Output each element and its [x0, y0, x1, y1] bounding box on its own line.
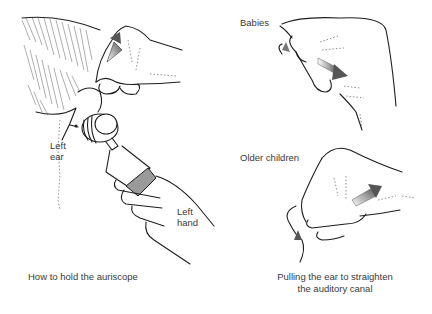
- left-caption: How to hold the auriscope: [28, 271, 168, 283]
- auriscope-drawing: [70, 88, 156, 196]
- left-hand-label-line2: hand: [177, 217, 198, 228]
- left-ear-label: Left ear: [50, 140, 66, 162]
- babies-hand-drawing: [279, 18, 396, 130]
- right-caption: Pulling the ear to straighten the audito…: [250, 271, 420, 295]
- head-hair-drawing: [22, 17, 100, 210]
- older-children-label: Older children: [240, 152, 299, 163]
- left-hand-label-line1: Left: [177, 206, 198, 217]
- left-ear-label-line1: Left: [50, 140, 66, 151]
- left-hand-label: Left hand: [177, 206, 198, 228]
- right-caption-line1: Pulling the ear to straighten: [250, 271, 420, 283]
- older-children-hand-drawing: [287, 148, 416, 262]
- upper-hand-drawing: [96, 26, 182, 94]
- left-ear-label-line2: ear: [50, 151, 66, 162]
- babies-label: Babies: [240, 17, 269, 28]
- right-caption-line2: the auditory canal: [250, 283, 420, 295]
